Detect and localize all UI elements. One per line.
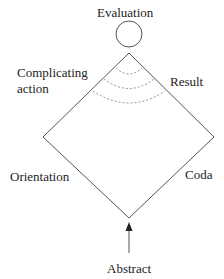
evaluation-circle bbox=[116, 21, 142, 47]
label-complicating-action-line2: action bbox=[17, 82, 49, 96]
label-orientation: Orientation bbox=[10, 170, 69, 184]
dashed-arc-3 bbox=[93, 91, 165, 103]
label-abstract: Abstract bbox=[107, 262, 151, 276]
dashed-arc-1 bbox=[116, 68, 142, 74]
label-coda: Coda bbox=[185, 168, 212, 182]
dashed-arc-2 bbox=[104, 79, 154, 89]
label-complicating-action-line1: Complicating bbox=[17, 66, 88, 80]
label-evaluation: Evaluation bbox=[97, 6, 153, 20]
label-result: Result bbox=[170, 75, 203, 89]
arrow-head bbox=[126, 222, 133, 231]
narrative-diagram bbox=[0, 0, 224, 279]
